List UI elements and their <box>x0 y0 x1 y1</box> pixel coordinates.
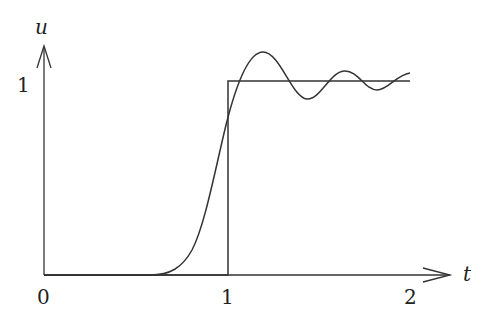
step-series <box>44 81 410 275</box>
chart-canvas: u t 1 0 1 2 <box>0 0 495 325</box>
x-tick-1: 1 <box>221 285 234 309</box>
y-tick-1: 1 <box>17 73 30 97</box>
response-series <box>44 52 410 275</box>
x-axis-label: t <box>463 262 472 286</box>
x-tick-2: 2 <box>404 285 417 309</box>
y-axis-label: u <box>35 15 48 39</box>
x-tick-0: 0 <box>37 285 50 309</box>
